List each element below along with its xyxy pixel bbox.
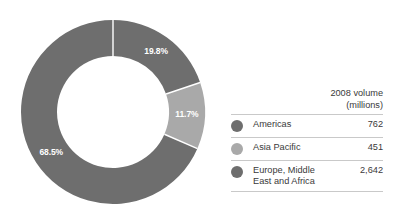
- legend-color-swatch-emea: [231, 166, 243, 178]
- legend-label-americas-line1: Americas: [253, 119, 345, 131]
- donut-chart: 19.8% 11.7% 68.5%: [11, 10, 215, 214]
- legend-header-line1: 2008 volume: [231, 88, 383, 100]
- legend-color-swatch-americas: [231, 120, 243, 132]
- legend-value-asia-pacific: 451: [349, 142, 383, 154]
- legend-value-emea: 2,642: [349, 165, 383, 177]
- legend-label-emea-line1: Europe, Middle: [253, 165, 345, 177]
- chart-figure: 19.8% 11.7% 68.5% 2008 volume (millions)…: [0, 0, 396, 223]
- legend-row-americas[interactable]: Americas 762: [231, 115, 383, 137]
- donut-chart-svg: 19.8% 11.7% 68.5%: [11, 10, 215, 214]
- legend-rule-bottom: [231, 191, 383, 192]
- donut-label-asia-pacific: 11.7%: [175, 109, 199, 119]
- legend-label-americas: Americas: [253, 119, 349, 131]
- donut-label-americas: 19.8%: [144, 46, 168, 56]
- legend-value-americas: 762: [349, 119, 383, 131]
- donut-slice-americas[interactable]: [113, 20, 200, 94]
- legend-swatch-cell-asia-pacific: [231, 142, 253, 155]
- legend-color-swatch-asia-pacific: [231, 143, 243, 155]
- legend-label-asia-pacific: Asia Pacific: [253, 142, 349, 154]
- legend-header-line2: (millions): [231, 100, 383, 112]
- donut-label-emea: 68.5%: [39, 147, 63, 157]
- legend-header: 2008 volume (millions): [231, 88, 383, 114]
- legend-label-emea: Europe, Middle East and Africa: [253, 165, 349, 188]
- legend-label-emea-line2: East and Africa: [253, 176, 345, 188]
- legend-row-asia-pacific[interactable]: Asia Pacific 451: [231, 138, 383, 160]
- legend-row-emea[interactable]: Europe, Middle East and Africa 2,642: [231, 161, 383, 191]
- legend-swatch-cell-emea: [231, 165, 253, 178]
- legend-table: 2008 volume (millions) Americas 762 Asia…: [231, 88, 383, 192]
- legend-swatch-cell-americas: [231, 119, 253, 132]
- legend-label-asia-pacific-line1: Asia Pacific: [253, 142, 345, 154]
